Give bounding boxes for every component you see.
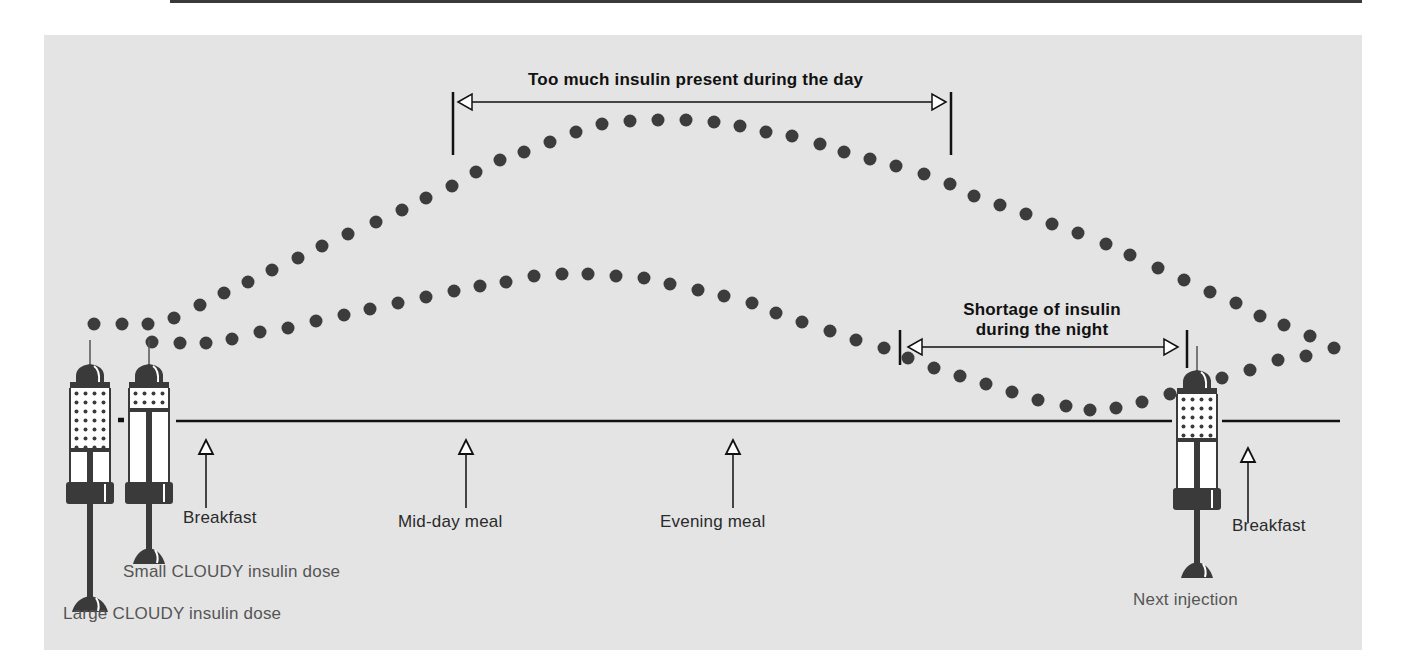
curve-dot bbox=[316, 240, 329, 253]
curve-dot bbox=[692, 284, 705, 297]
curve-dot bbox=[226, 333, 239, 346]
meal-label-evening: Evening meal bbox=[660, 512, 765, 532]
meal-arrow-midday bbox=[459, 440, 473, 508]
curve-dot bbox=[1100, 238, 1113, 251]
curve-dot bbox=[292, 252, 305, 265]
curve-dot bbox=[570, 126, 583, 139]
curve-dot bbox=[392, 297, 405, 310]
curve-dot bbox=[1272, 354, 1285, 367]
curve-dot bbox=[680, 114, 693, 127]
curve-dot bbox=[1278, 319, 1291, 332]
curve-dot bbox=[1254, 310, 1267, 323]
curve-dot bbox=[342, 228, 355, 241]
curve-dot bbox=[734, 120, 747, 133]
syringe-label-large: Large CLOUDY insulin dose bbox=[63, 604, 281, 624]
day-excess-annotation: Too much insulin present during the day bbox=[528, 70, 863, 90]
curve-dot bbox=[760, 126, 773, 139]
curve-dot bbox=[168, 312, 181, 325]
curve-dot bbox=[528, 270, 541, 283]
curve-dot bbox=[664, 278, 677, 291]
large-dose-curve bbox=[88, 114, 1341, 355]
night-shortage-line1: Shortage of insulin bbox=[942, 300, 1142, 320]
curve-dot bbox=[652, 114, 665, 127]
curve-dot bbox=[1084, 404, 1097, 417]
curve-dot bbox=[624, 115, 637, 128]
curve-dot bbox=[146, 336, 159, 349]
curve-dot bbox=[200, 337, 213, 350]
curve-dot bbox=[364, 303, 377, 316]
night-shortage-line2: during the night bbox=[942, 320, 1142, 340]
curve-dot bbox=[582, 268, 595, 281]
large-syringe-icon bbox=[66, 340, 114, 612]
meal-arrow-breakfast-next bbox=[1241, 448, 1255, 522]
curve-dot bbox=[1136, 396, 1149, 409]
curve-dot bbox=[518, 146, 531, 159]
curve-dot bbox=[1204, 286, 1217, 299]
curve-dot bbox=[796, 316, 809, 329]
curve-dot bbox=[1006, 386, 1019, 399]
curve-dot bbox=[500, 276, 513, 289]
curve-dot bbox=[1060, 400, 1073, 413]
curve-dot bbox=[88, 318, 101, 331]
curve-dot bbox=[1178, 274, 1191, 287]
curve-dot bbox=[708, 116, 721, 129]
syringe-label-small: Small CLOUDY insulin dose bbox=[123, 562, 340, 582]
curve-dot bbox=[928, 362, 941, 375]
curve-dot bbox=[266, 264, 279, 277]
curve-dot bbox=[786, 130, 799, 143]
curve-dot bbox=[1230, 297, 1243, 310]
meal-label-breakfast: Breakfast bbox=[183, 508, 257, 528]
curve-dot bbox=[838, 146, 851, 159]
curve-dot bbox=[1072, 227, 1085, 240]
curve-dot bbox=[994, 199, 1007, 212]
meal-label-breakfast-next: Breakfast bbox=[1232, 516, 1306, 536]
curve-dot bbox=[1110, 402, 1123, 415]
curve-dot bbox=[556, 268, 569, 281]
curve-dot bbox=[918, 168, 931, 181]
curve-dot bbox=[1046, 218, 1059, 231]
curve-dot bbox=[446, 180, 459, 193]
curve-dot bbox=[142, 318, 155, 331]
curve-dot bbox=[1124, 249, 1137, 262]
curve-dot bbox=[218, 287, 231, 300]
curve-dot bbox=[470, 166, 483, 179]
curve-dot bbox=[954, 370, 967, 383]
curve-dot bbox=[474, 280, 487, 293]
small-syringe-icon bbox=[125, 340, 173, 564]
curve-dot bbox=[1304, 330, 1317, 343]
curve-dot bbox=[254, 326, 267, 339]
curve-dot bbox=[878, 342, 891, 355]
curve-dot bbox=[1020, 208, 1033, 221]
curve-dot bbox=[338, 309, 351, 322]
curve-dot bbox=[596, 118, 609, 131]
small-dose-curve bbox=[146, 268, 1313, 417]
curve-dot bbox=[494, 154, 507, 167]
curve-dot bbox=[544, 136, 557, 149]
syringe-label-next: Next injection bbox=[1133, 590, 1238, 610]
curve-dot bbox=[1152, 262, 1165, 275]
curve-dot bbox=[850, 334, 863, 347]
curve-dot bbox=[194, 299, 207, 312]
curve-dot bbox=[944, 178, 957, 191]
curve-dot bbox=[282, 322, 295, 335]
meal-arrow-breakfast bbox=[199, 440, 213, 508]
curve-dot bbox=[980, 378, 993, 391]
night-shortage-annotation: Shortage of insulin during the night bbox=[942, 300, 1142, 340]
day-excess-bracket bbox=[453, 92, 951, 155]
next-injection-syringe-icon bbox=[1173, 346, 1221, 578]
curve-dot bbox=[1032, 394, 1045, 407]
curve-dot bbox=[420, 291, 433, 304]
meal-arrow-evening bbox=[726, 440, 740, 508]
curve-dot bbox=[242, 276, 255, 289]
curve-dot bbox=[420, 192, 433, 205]
curve-dot bbox=[116, 318, 129, 331]
curve-dot bbox=[1164, 388, 1177, 401]
curve-dot bbox=[746, 297, 759, 310]
curve-dot bbox=[1244, 364, 1257, 377]
curve-dot bbox=[824, 325, 837, 338]
curve-dot bbox=[174, 337, 187, 350]
curve-dot bbox=[396, 204, 409, 217]
curve-dot bbox=[968, 190, 981, 203]
curve-dot bbox=[448, 285, 461, 298]
curve-dot bbox=[610, 270, 623, 283]
